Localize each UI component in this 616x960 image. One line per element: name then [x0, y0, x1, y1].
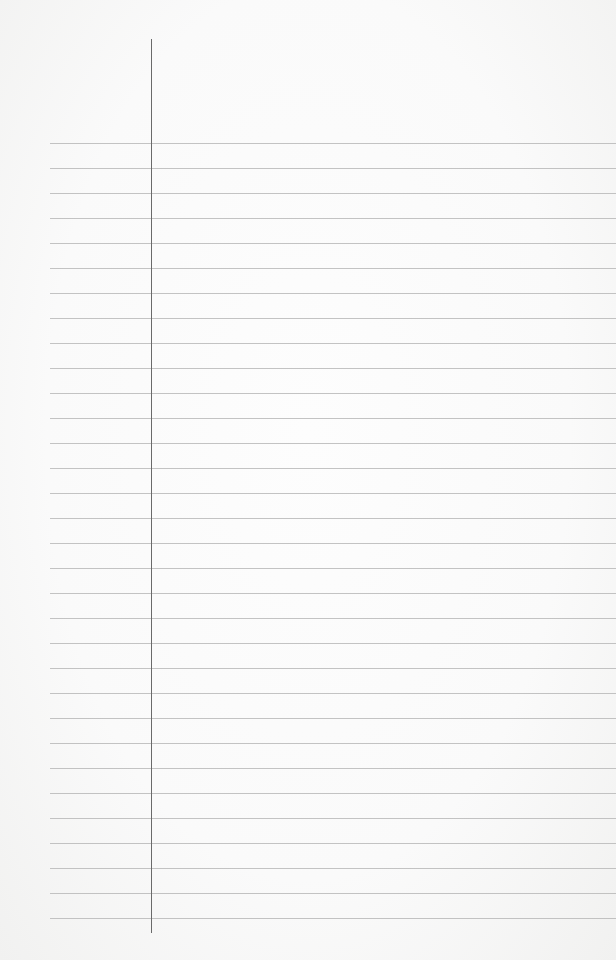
ruled-line	[50, 743, 616, 744]
ruled-line	[50, 593, 616, 594]
ruled-line	[50, 543, 616, 544]
lined-paper	[0, 0, 616, 960]
ruled-line	[50, 768, 616, 769]
ruled-line	[50, 243, 616, 244]
ruled-line	[50, 693, 616, 694]
ruled-line	[50, 418, 616, 419]
ruled-line	[50, 393, 616, 394]
ruled-line	[50, 668, 616, 669]
ruled-line	[50, 193, 616, 194]
ruled-line	[50, 618, 616, 619]
ruled-line	[50, 218, 616, 219]
ruled-line	[50, 918, 616, 919]
ruled-line	[50, 818, 616, 819]
ruled-line	[50, 568, 616, 569]
ruled-line	[50, 318, 616, 319]
ruled-line	[50, 468, 616, 469]
ruled-line	[50, 168, 616, 169]
ruled-line	[50, 268, 616, 269]
ruled-line	[50, 643, 616, 644]
ruled-line	[50, 518, 616, 519]
ruled-line	[50, 793, 616, 794]
ruled-line	[50, 893, 616, 894]
ruled-line	[50, 143, 616, 144]
ruled-line	[50, 493, 616, 494]
ruled-line	[50, 343, 616, 344]
margin-line	[151, 39, 152, 933]
ruled-line	[50, 868, 616, 869]
ruled-line	[50, 843, 616, 844]
ruled-line	[50, 718, 616, 719]
ruled-line	[50, 293, 616, 294]
ruled-line	[50, 443, 616, 444]
ruled-line	[50, 368, 616, 369]
